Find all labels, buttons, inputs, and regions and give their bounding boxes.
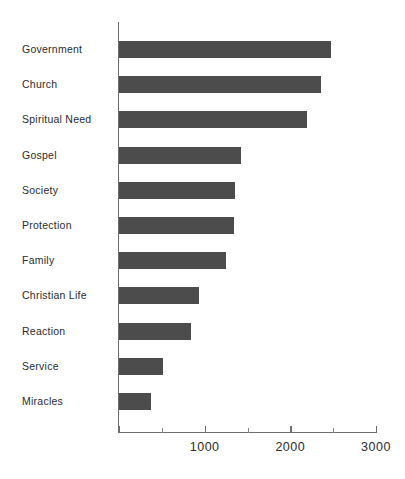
bar — [119, 393, 151, 410]
bar-row: Church — [0, 76, 405, 111]
bar — [119, 111, 307, 128]
bar — [119, 287, 199, 304]
x-tick-label: 2000 — [275, 440, 305, 454]
category-label: Reaction — [0, 323, 108, 340]
bar — [119, 182, 235, 199]
x-tick-label: 1000 — [190, 440, 220, 454]
bar-row: Protection — [0, 217, 405, 252]
category-label: Service — [0, 358, 108, 375]
category-label: Spiritual Need — [0, 111, 108, 128]
bar-row: Miracles — [0, 393, 405, 428]
x-tick-major — [205, 426, 206, 433]
bar — [119, 252, 226, 269]
bar-row: Reaction — [0, 323, 405, 358]
category-label: Protection — [0, 217, 108, 234]
bar — [119, 217, 234, 234]
x-tick-major — [376, 426, 377, 433]
bar-row: Government — [0, 41, 405, 76]
bar-row: Christian Life — [0, 287, 405, 322]
bar — [119, 41, 331, 58]
bar-chart-figure: GovernmentChurchSpiritual NeedGospelSoci… — [0, 0, 405, 479]
bar — [119, 358, 163, 375]
bar-row: Service — [0, 358, 405, 393]
x-tick-label: 3000 — [361, 440, 391, 454]
bar-row: Society — [0, 182, 405, 217]
x-tick-major — [290, 426, 291, 433]
category-label: Family — [0, 252, 108, 269]
bar — [119, 323, 191, 340]
category-label: Christian Life — [0, 287, 108, 304]
bar-row: Gospel — [0, 147, 405, 182]
category-label: Church — [0, 76, 108, 93]
category-label: Government — [0, 41, 108, 58]
category-label: Gospel — [0, 147, 108, 164]
bar-row: Family — [0, 252, 405, 287]
x-tick-minor — [162, 428, 163, 433]
bar-row: Spiritual Need — [0, 111, 405, 146]
category-label: Society — [0, 182, 108, 199]
bars-layer: GovernmentChurchSpiritual NeedGospelSoci… — [0, 0, 405, 479]
x-tick-minor — [333, 428, 334, 433]
x-tick-major — [119, 426, 120, 433]
bar — [119, 147, 241, 164]
bar — [119, 76, 321, 93]
x-tick-minor — [248, 428, 249, 433]
category-label: Miracles — [0, 393, 108, 410]
